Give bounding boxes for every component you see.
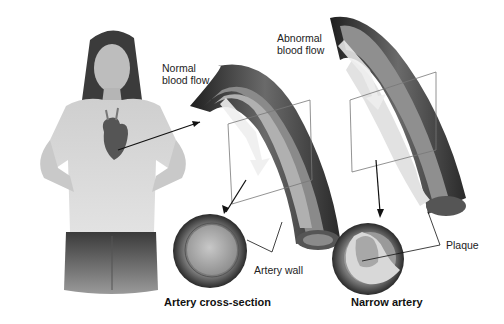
label-artery-wall: Artery wall [254,264,303,276]
label-plaque: Plaque [446,239,479,251]
label-normal-flow: Normal blood flow [162,62,209,86]
normal-cross-section [173,214,247,288]
label-normal-line1: Normal [162,62,209,74]
illustration-canvas [0,0,504,324]
label-normal-line2: blood flow [162,74,209,86]
label-abnormal-line2: blood flow [277,44,324,56]
caption-artery-cross-section: Artery cross-section [164,296,271,308]
label-abnormal-flow: Abnormal blood flow [277,32,324,56]
narrow-cross-section [332,223,404,295]
label-abnormal-line1: Abnormal [277,32,324,44]
caption-narrow-artery: Narrow artery [351,296,423,308]
face [94,44,130,92]
abnormal-artery [330,17,466,216]
narrow-section-pointer [376,160,380,212]
jeans [64,232,158,294]
normal-section-pointer [226,180,246,212]
artery-wall-leader [247,222,282,252]
